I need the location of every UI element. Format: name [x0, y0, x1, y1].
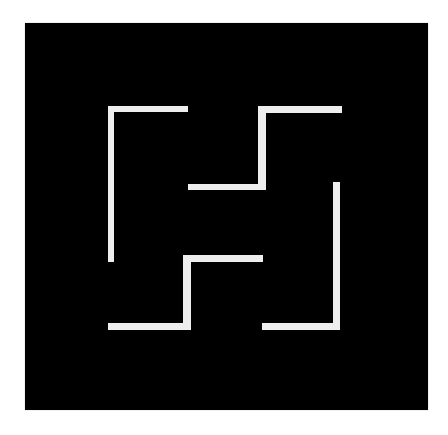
line-segment [108, 106, 114, 262]
line-segment [108, 106, 188, 112]
black-panel [25, 23, 428, 410]
line-segment [183, 255, 263, 262]
line-segment [258, 106, 266, 190]
line-segment [333, 182, 340, 330]
line-segment [188, 184, 266, 190]
line-segment [108, 323, 191, 330]
line-segment [183, 255, 191, 330]
line-segment [262, 323, 340, 330]
line-segment [258, 106, 342, 113]
